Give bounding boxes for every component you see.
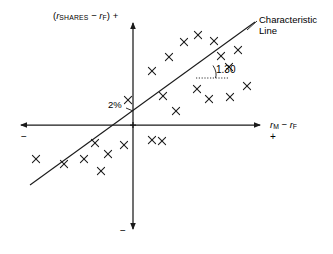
scatter-point (205, 95, 212, 102)
scatter-point (80, 155, 87, 162)
x-axis-label: rM − rF (270, 120, 297, 131)
slope-value-label: 1.30 (216, 65, 235, 75)
characteristic-line-label-line2: Line (259, 25, 317, 36)
scatter-point (32, 155, 39, 162)
scatter-point (165, 53, 172, 60)
scatter-point (180, 38, 187, 45)
scatter-points-layer (32, 31, 250, 174)
scatter-point (158, 137, 165, 144)
y-axis-label-minus: − (89, 10, 100, 21)
characteristic-line-label-line1: Characteristic (259, 14, 317, 25)
scatter-point (148, 136, 155, 143)
x-axis-label-var2-subscript: F (293, 123, 297, 130)
scatter-point (210, 37, 217, 44)
x-axis-negative-sign: − (21, 132, 27, 142)
characteristic-line-figure: (rSHARES − rF) + rM − rF + − − 2% 1.30 C… (0, 0, 333, 254)
scatter-point (159, 92, 166, 99)
x-axis-positive-sign: + (270, 132, 276, 142)
y-axis-label-var1-subscript: SHARES (59, 14, 88, 21)
scatter-point (120, 141, 127, 148)
scatter-point (148, 67, 155, 74)
characteristic-line-leader (247, 21, 257, 30)
scatter-point (226, 93, 233, 100)
characteristic-line (30, 22, 255, 185)
scatter-point (124, 96, 131, 103)
y-axis-negative-sign: − (120, 226, 126, 236)
scatter-point (97, 167, 104, 174)
intercept-label: 2% (108, 100, 122, 110)
scatter-point (217, 52, 224, 59)
characteristic-line-label: Characteristic Line (259, 14, 317, 36)
scatter-point (91, 139, 98, 146)
scatter-point (172, 107, 179, 114)
scatter-point (234, 46, 241, 53)
scatter-point (193, 85, 200, 92)
intercept-pointer (126, 108, 133, 111)
scatter-point (60, 160, 67, 167)
x-axis-label-minus: − (279, 119, 290, 130)
scatter-point (194, 31, 201, 38)
scatter-point (243, 82, 250, 89)
y-axis-label-suffix: ) + (107, 10, 118, 21)
scatter-point (104, 150, 111, 157)
y-axis-label: (rSHARES − rF) + (53, 11, 118, 22)
